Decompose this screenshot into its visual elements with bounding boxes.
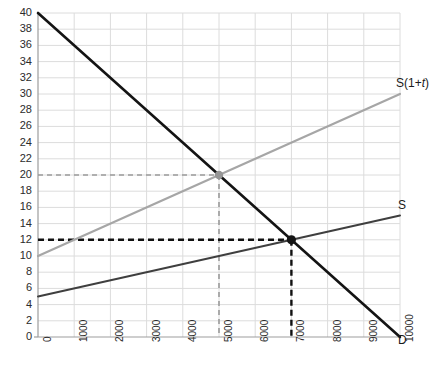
- y-tick-label: 12: [4, 234, 32, 245]
- supply-demand-tax-chart: 0246810121416182022242628303234363840 01…: [0, 0, 440, 384]
- y-tick-label: 40: [4, 7, 32, 18]
- x-tick-label: 8000: [333, 320, 343, 342]
- x-tick-label: 2000: [115, 320, 125, 342]
- y-tick-label: 36: [4, 39, 32, 50]
- x-tick-label: 1000: [79, 320, 89, 342]
- y-tick-label: 26: [4, 120, 32, 131]
- x-tick-label: 9000: [369, 320, 379, 342]
- x-tick-label: 4000: [188, 320, 198, 342]
- y-tick-label: 28: [4, 104, 32, 115]
- x-tick-label: 7000: [296, 320, 306, 342]
- y-tick-label: 22: [4, 153, 32, 164]
- y-tick-label: 34: [4, 56, 32, 67]
- y-tick-label: 30: [4, 88, 32, 99]
- y-tick-label: 16: [4, 201, 32, 212]
- y-tick-label: 0: [4, 331, 32, 342]
- series-label-s: S: [398, 199, 406, 211]
- y-tick-label: 4: [4, 299, 32, 310]
- y-tick-label: 38: [4, 23, 32, 34]
- marker-equilibrium-with-tax: [215, 171, 223, 179]
- y-tick-label: 6: [4, 282, 32, 293]
- y-tick-label: 18: [4, 185, 32, 196]
- y-tick-label: 2: [4, 315, 32, 326]
- y-tick-label: 32: [4, 72, 32, 83]
- series-label-s-1-t: S(1+t): [396, 77, 429, 89]
- y-tick-label: 14: [4, 218, 32, 229]
- y-tick-label: 20: [4, 169, 32, 180]
- x-tick-label: 6000: [260, 320, 270, 342]
- x-tick-label: 3000: [152, 320, 162, 342]
- x-tick-label: 5000: [224, 320, 234, 342]
- series-label-d: D: [398, 334, 407, 346]
- x-tick-label: 0: [43, 336, 53, 342]
- y-tick-label: 8: [4, 266, 32, 277]
- marker-equilibrium-no-tax: [287, 235, 296, 244]
- y-tick-label: 10: [4, 250, 32, 261]
- y-tick-label: 24: [4, 137, 32, 148]
